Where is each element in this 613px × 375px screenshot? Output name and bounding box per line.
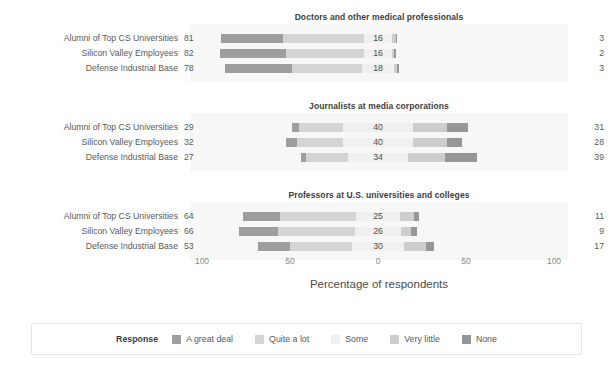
bar-segment-very-little: [400, 212, 414, 221]
row-left-total: 81: [184, 32, 206, 45]
bar-segment-none: [411, 227, 416, 236]
bar-segment-very-little: [413, 138, 446, 147]
bar-segment-none: [396, 34, 398, 43]
legend-item[interactable]: Some: [331, 334, 368, 344]
legend-items: A great dealQuite a lotSomeVery littleNo…: [172, 334, 497, 344]
legend-swatch-icon: [331, 335, 340, 344]
row-left-total: 64: [184, 210, 206, 223]
bar-segment-none: [397, 64, 399, 73]
row-center-value: 40: [366, 121, 390, 134]
chart-row: Silicon Valley Employees82216: [0, 47, 613, 60]
bar-segment-a-great-deal: [286, 138, 297, 147]
bar-segment-very-little: [404, 242, 425, 251]
legend-item-label: None: [476, 334, 497, 344]
row-right-total: 11: [578, 210, 604, 223]
row-category-label: Alumni of Top CS Universities: [0, 210, 178, 223]
row-center-value: 26: [366, 225, 390, 238]
row-category-label: Silicon Valley Employees: [0, 225, 178, 238]
legend-item[interactable]: None: [462, 334, 497, 344]
row-left-total: 78: [184, 62, 206, 75]
x-axis-tick: 50: [275, 256, 305, 266]
bar-segment-none: [445, 153, 477, 162]
bar-segment-none: [447, 123, 468, 132]
x-axis-tick: 100: [187, 256, 217, 266]
bar-segment-a-great-deal: [225, 64, 292, 73]
bar-segment-a-great-deal: [243, 212, 280, 221]
bar-segment-quite-a-lot: [297, 138, 343, 147]
row-right-total: 3: [578, 62, 604, 75]
bar-segment-quite-a-lot: [299, 123, 343, 132]
chart-row: Silicon Valley Employees66926: [0, 225, 613, 238]
row-center-value: 16: [366, 47, 390, 60]
legend-title: Response: [116, 334, 158, 344]
bar-segment-none: [414, 212, 419, 221]
row-right-total: 9: [578, 225, 604, 238]
legend-swatch-icon: [255, 335, 264, 344]
bar-segment-quite-a-lot: [280, 212, 356, 221]
legend-item[interactable]: Quite a lot: [255, 334, 309, 344]
x-axis-tick: 0: [363, 256, 393, 266]
bar-segment-none: [426, 242, 435, 251]
bar-segment-a-great-deal: [292, 123, 299, 132]
chart-panel: Professors at U.S. universities and coll…: [0, 188, 613, 260]
row-right-total: 39: [578, 151, 604, 164]
bar-segment-a-great-deal: [258, 242, 290, 251]
panel-title: Professors at U.S. universities and coll…: [190, 190, 568, 200]
row-left-total: 27: [184, 151, 206, 164]
bar-segment-none: [447, 138, 463, 147]
row-center-value: 25: [366, 210, 390, 223]
row-right-total: 3: [578, 32, 604, 45]
x-axis-tick: 100: [539, 256, 569, 266]
legend-swatch-icon: [390, 335, 399, 344]
bar-segment-quite-a-lot: [283, 34, 364, 43]
bar-segment-quite-a-lot: [286, 49, 363, 58]
bar-segment-quite-a-lot: [306, 153, 348, 162]
chart-row: Defense Industrial Base531730: [0, 240, 613, 253]
x-axis-tick: 50: [451, 256, 481, 266]
legend-item-label: Very little: [404, 334, 440, 344]
bar-segment-quite-a-lot: [292, 64, 362, 73]
row-category-label: Defense Industrial Base: [0, 62, 178, 75]
bar-segment-very-little: [401, 227, 412, 236]
row-center-value: 16: [366, 32, 390, 45]
bar-segment-none: [394, 49, 396, 58]
legend-item[interactable]: Very little: [390, 334, 440, 344]
bar-segment-a-great-deal: [239, 227, 278, 236]
bar-segment-a-great-deal: [220, 49, 287, 58]
row-right-total: 28: [578, 136, 604, 149]
chart-panel: Journalists at media corporationsAlumni …: [0, 99, 613, 171]
row-center-value: 40: [366, 136, 390, 149]
chart-row: Alumni of Top CS Universities293140: [0, 121, 613, 134]
row-left-total: 53: [184, 240, 206, 253]
row-left-total: 32: [184, 136, 206, 149]
bar-segment-very-little: [408, 153, 445, 162]
bar-segment-quite-a-lot: [278, 227, 355, 236]
chart-row: Silicon Valley Employees322840: [0, 136, 613, 149]
x-axis-title: Percentage of respondents: [190, 278, 568, 290]
row-right-total: 31: [578, 121, 604, 134]
row-center-value: 18: [366, 62, 390, 75]
chart-row: Alumni of Top CS Universities641125: [0, 210, 613, 223]
x-axis: 10050050100: [0, 256, 613, 276]
diverging-stacked-bar-chart: Doctors and other medical professionalsA…: [0, 0, 613, 375]
legend-item-label: Quite a lot: [269, 334, 309, 344]
bar-segment-a-great-deal: [221, 34, 283, 43]
legend-item[interactable]: A great deal: [172, 334, 233, 344]
chart-panel: Doctors and other medical professionalsA…: [0, 10, 613, 82]
legend: Response A great dealQuite a lotSomeVery…: [31, 323, 582, 355]
bar-segment-quite-a-lot: [290, 242, 352, 251]
panel-title: Journalists at media corporations: [190, 101, 568, 111]
bar-segment-very-little: [413, 123, 446, 132]
row-category-label: Defense Industrial Base: [0, 240, 178, 253]
legend-inner: Response A great dealQuite a lotSomeVery…: [116, 334, 497, 344]
row-left-total: 66: [184, 225, 206, 238]
row-category-label: Silicon Valley Employees: [0, 136, 178, 149]
legend-swatch-icon: [462, 335, 471, 344]
row-category-label: Alumni of Top CS Universities: [0, 121, 178, 134]
row-category-label: Alumni of Top CS Universities: [0, 32, 178, 45]
row-center-value: 34: [366, 151, 390, 164]
row-center-value: 30: [366, 240, 390, 253]
row-left-total: 82: [184, 47, 206, 60]
row-right-total: 2: [578, 47, 604, 60]
row-left-total: 29: [184, 121, 206, 134]
